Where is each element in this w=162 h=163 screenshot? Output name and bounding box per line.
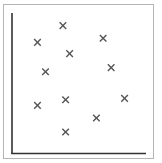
x-marker-icon bbox=[67, 51, 73, 57]
scatter-plot bbox=[0, 0, 162, 163]
x-marker-icon bbox=[35, 103, 41, 109]
data-markers bbox=[35, 23, 128, 135]
x-marker-icon bbox=[122, 96, 128, 102]
x-marker-icon bbox=[100, 35, 106, 41]
x-marker-icon bbox=[94, 115, 100, 121]
x-marker-icon bbox=[60, 23, 66, 29]
x-marker-icon bbox=[63, 97, 69, 103]
x-marker-icon bbox=[108, 65, 114, 71]
x-marker-icon bbox=[63, 129, 69, 135]
x-marker-icon bbox=[35, 40, 41, 46]
x-marker-icon bbox=[43, 69, 49, 75]
